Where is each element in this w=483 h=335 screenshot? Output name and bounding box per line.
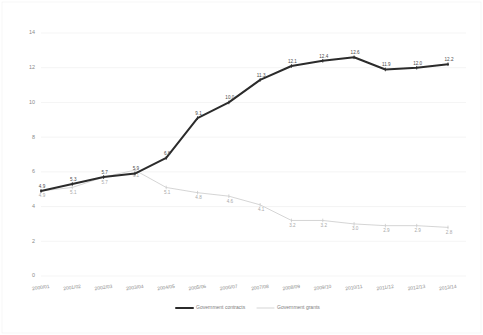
data-point-label: 11.9	[382, 62, 391, 67]
data-point-label: 4.9	[39, 193, 46, 198]
chart-container: 02468101214 2000/012001/022002/032003/04…	[0, 0, 483, 335]
data-point-label: 5.1	[164, 190, 171, 195]
data-point-label: 12.0	[413, 61, 422, 66]
legend-label-grants: Government grants	[277, 304, 320, 310]
y-axis-tick: 6	[32, 168, 35, 174]
data-point-label: 4.6	[227, 199, 234, 204]
y-axis-tick: 0	[32, 272, 35, 278]
x-axis-tick: 2002/03	[94, 284, 112, 291]
data-point-label: 10.0	[225, 95, 234, 100]
y-axis-tick: 10	[29, 99, 35, 105]
x-axis-tick: 2005/06	[188, 284, 206, 291]
data-point-label: 3.2	[289, 223, 296, 228]
data-point-label: 6.8	[164, 151, 171, 156]
data-point-label: 4.9	[39, 184, 46, 189]
data-point-label: 5.3	[70, 177, 77, 182]
x-axis-tick: 2011/12	[376, 284, 394, 291]
x-axis-tick: 2001/02	[63, 284, 81, 291]
data-point-label: 3.2	[321, 223, 328, 228]
data-point-label: 5.7	[101, 170, 108, 175]
data-point-label: 2.9	[414, 228, 421, 233]
y-axis-tick: 4	[32, 203, 35, 209]
x-axis-tick: 2012/13	[407, 284, 425, 291]
x-axis-tick: 2009/10	[313, 284, 331, 291]
data-point-label: 2.8	[446, 230, 453, 235]
contracts-data-labels: 4.95.35.75.96.89.110.011.312.112.412.611…	[39, 50, 454, 189]
data-point-label: 11.3	[257, 73, 266, 78]
data-point-label: 12.2	[445, 57, 454, 62]
chart-legend: Government contractsGovernment grants	[176, 304, 320, 310]
data-point-label: 3.0	[352, 226, 359, 231]
chart-frame	[2, 2, 481, 333]
series-government-contracts: 4.95.35.75.96.89.110.011.312.112.412.611…	[39, 50, 454, 193]
x-axis-tick: 2004/05	[157, 284, 175, 291]
x-axis-tick: 2000/01	[32, 284, 50, 291]
x-axis-tick: 2006/07	[220, 284, 238, 291]
data-point-label: 5.9	[133, 166, 140, 171]
data-point-label: 2.9	[383, 228, 390, 233]
line-chart: 02468101214 2000/012001/022002/032003/04…	[0, 0, 483, 335]
y-axis-tick: 2	[32, 238, 35, 244]
data-point-label: 5.1	[70, 190, 77, 195]
data-point-label: 9.1	[195, 111, 202, 116]
data-point-label: 5.7	[101, 180, 108, 185]
data-point-label: 4.8	[195, 195, 202, 200]
x-axis-tick: 2003/04	[126, 284, 144, 291]
data-point-label: 12.6	[351, 50, 360, 55]
legend-label-contracts: Government contracts	[196, 304, 246, 310]
x-axis-tick: 2007/08	[251, 284, 269, 291]
x-axis-tick: 2008/09	[282, 284, 300, 291]
data-point-label: 12.4	[319, 54, 328, 59]
data-point-label: 4.1	[258, 207, 265, 212]
y-axis-tick: 8	[32, 134, 35, 140]
data-point-label: 12.1	[288, 59, 297, 64]
x-axis-tick: 2010/11	[345, 284, 363, 291]
x-axis-tick-labels: 2000/012001/022002/032003/042004/052005/…	[32, 284, 457, 291]
y-axis-tick-labels: 02468101214	[29, 29, 35, 278]
y-axis-tick: 14	[29, 29, 35, 35]
x-axis-tick: 2013/14	[439, 284, 457, 291]
y-axis-tick: 12	[29, 64, 35, 70]
